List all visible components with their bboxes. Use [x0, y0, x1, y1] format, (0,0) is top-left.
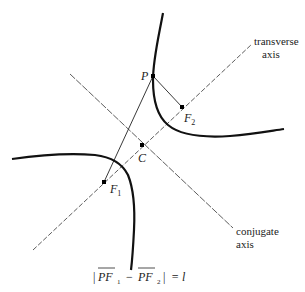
hyperbola-diagram: P F2 C F1 transverse axis conjugate axis… — [0, 0, 305, 292]
label-F1: F1 — [109, 182, 121, 198]
svg-text:|: | — [163, 270, 165, 284]
conjugate-axis-line — [70, 74, 233, 228]
svg-text:−: − — [126, 270, 133, 284]
svg-text:PF: PF — [137, 270, 153, 284]
svg-text:1: 1 — [117, 278, 121, 286]
svg-text:|: | — [93, 270, 95, 284]
point-C — [140, 143, 144, 147]
svg-text:PF: PF — [97, 270, 113, 284]
label-C: C — [138, 151, 147, 165]
label-F2: F2 — [183, 111, 195, 127]
label-conjugate: conjugate — [236, 225, 279, 237]
label-transverse: transverse — [254, 35, 299, 47]
label-P: P — [140, 69, 149, 83]
point-F1 — [102, 180, 106, 184]
svg-text:2: 2 — [157, 278, 161, 286]
segment-PF1 — [104, 76, 153, 182]
formula: | PF 1 − PF 2 | = l — [93, 268, 186, 286]
point-F2 — [180, 105, 184, 109]
point-P — [151, 74, 155, 78]
label-transverse-axis: axis — [262, 48, 280, 60]
segment-PF2 — [153, 76, 182, 107]
label-conjugate-axis: axis — [236, 238, 254, 250]
hyperbola-right-branch — [153, 13, 284, 137]
svg-text:= l: = l — [171, 270, 186, 284]
